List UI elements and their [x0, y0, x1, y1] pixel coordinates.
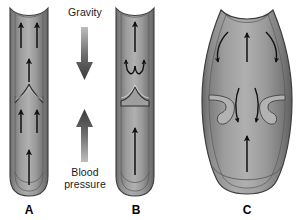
panel-letter-a: A	[12, 203, 46, 217]
blood-pressure-label: Blood pressure	[52, 166, 118, 190]
venous-valve-diagram	[0, 0, 299, 220]
gravity-label: Gravity	[55, 6, 115, 18]
panel-a-vein	[10, 8, 48, 196]
gravity-arrow	[76, 27, 93, 80]
panel-letter-c: C	[230, 203, 264, 217]
panel-b-vein	[116, 8, 154, 196]
panel-c-vein	[202, 10, 292, 194]
blood-pressure-arrow	[76, 109, 93, 162]
panel-letter-b: B	[120, 203, 152, 217]
figure-canvas: Gravity Blood pressure A B C	[0, 0, 299, 220]
